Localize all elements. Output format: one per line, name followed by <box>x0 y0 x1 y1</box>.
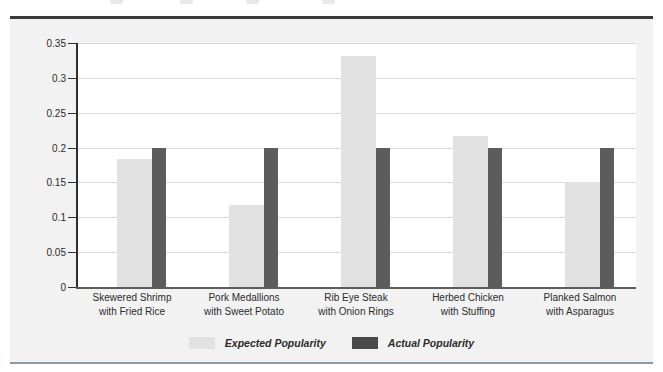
y-axis-tick-label: 0.2 <box>52 142 66 153</box>
legend-swatch-actual <box>352 337 378 349</box>
artifact-chip <box>246 0 259 4</box>
x-axis-label-line: with Fried Rice <box>76 305 188 319</box>
legend-item-1[interactable]: Actual Popularity <box>352 337 474 349</box>
artifact-chip <box>180 0 193 4</box>
y-axis-tick <box>68 182 76 183</box>
x-axis-label-line: Skewered Shrimp <box>76 291 188 305</box>
x-axis-label-line: Rib Eye Steak <box>300 291 412 305</box>
x-axis-label-line: Herbed Chicken <box>412 291 524 305</box>
chart-legend: Expected PopularityActual Popularity <box>10 331 653 355</box>
chart-panel: 00.050.10.150.20.250.30.35 Skewered Shri… <box>10 16 653 364</box>
y-axis-tick <box>68 252 76 253</box>
y-axis-tick-label: 0.15 <box>47 177 66 188</box>
bar-expected-0[interactable] <box>117 159 152 287</box>
y-axis-line <box>76 43 78 287</box>
x-axis-label-2: Rib Eye Steakwith Onion Rings <box>300 291 412 319</box>
bar-actual-0[interactable] <box>152 148 166 287</box>
y-axis-tick-label: 0.25 <box>47 107 66 118</box>
y-axis-tick-labels: 00.050.10.150.20.250.30.35 <box>10 43 66 287</box>
bar-actual-2[interactable] <box>376 148 390 287</box>
x-axis-label-line: Planked Salmon <box>524 291 636 305</box>
y-axis-tick <box>68 78 76 79</box>
x-axis-label-line: with Onion Rings <box>300 305 412 319</box>
y-axis-tick <box>68 148 76 149</box>
bars-layer <box>76 43 636 287</box>
bar-expected-1[interactable] <box>229 205 264 287</box>
y-axis-tick-label: 0.35 <box>47 38 66 49</box>
chart-screenshot: 00.050.10.150.20.250.30.35 Skewered Shri… <box>0 0 663 372</box>
bar-expected-3[interactable] <box>453 136 488 287</box>
y-axis-tick-label: 0 <box>60 282 66 293</box>
y-axis-tick <box>68 43 76 44</box>
x-axis-label-line: Pork Medallions <box>188 291 300 305</box>
bar-expected-2[interactable] <box>341 56 376 287</box>
x-axis-line <box>76 287 636 289</box>
x-axis-label-4: Planked Salmonwith Asparagus <box>524 291 636 319</box>
bar-actual-1[interactable] <box>264 148 278 287</box>
y-axis-tick <box>68 287 76 288</box>
bar-actual-4[interactable] <box>600 148 614 287</box>
artifact-chip <box>110 0 123 4</box>
legend-item-0[interactable]: Expected Popularity <box>189 337 326 349</box>
top-cut-off-artifact <box>0 0 663 13</box>
y-axis-tick-label: 0.1 <box>52 212 66 223</box>
y-axis-tick-label: 0.3 <box>52 72 66 83</box>
y-axis-tick <box>68 113 76 114</box>
x-axis-label-line: with Sweet Potato <box>188 305 300 319</box>
x-axis-label-1: Pork Medallionswith Sweet Potato <box>188 291 300 319</box>
y-axis-tick-label: 0.05 <box>47 247 66 258</box>
y-axis-tick <box>68 217 76 218</box>
x-axis-category-labels: Skewered Shrimpwith Fried RicePork Medal… <box>76 291 636 325</box>
legend-label: Actual Popularity <box>388 337 474 349</box>
bar-actual-3[interactable] <box>488 148 502 287</box>
plot-area <box>76 43 636 287</box>
legend-swatch-expected <box>189 337 215 349</box>
artifact-chip <box>322 0 335 4</box>
x-axis-label-0: Skewered Shrimpwith Fried Rice <box>76 291 188 319</box>
x-axis-label-line: with Asparagus <box>524 305 636 319</box>
legend-label: Expected Popularity <box>225 337 326 349</box>
x-axis-label-3: Herbed Chickenwith Stuffing <box>412 291 524 319</box>
bar-expected-4[interactable] <box>565 182 600 287</box>
x-axis-label-line: with Stuffing <box>412 305 524 319</box>
